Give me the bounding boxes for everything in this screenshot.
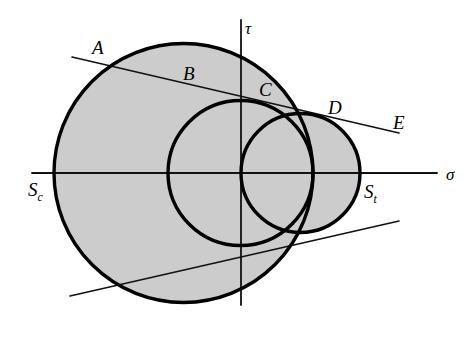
sc-subscript: c [38, 191, 43, 204]
point-label-c: C [259, 80, 272, 99]
mohr-circle-canvas [0, 0, 470, 341]
point-label-d: D [328, 98, 342, 117]
sc-symbol: S [28, 179, 38, 200]
mohr-circle-figure: A B C D E τ σ Sc St [0, 0, 470, 341]
st-subscript: t [374, 193, 377, 206]
tensile-strength-label: St [364, 182, 377, 206]
compressive-strength-label: Sc [28, 180, 43, 204]
point-label-e: E [393, 113, 405, 132]
st-symbol: S [364, 181, 374, 202]
point-label-a: A [92, 38, 104, 57]
point-label-b: B [183, 64, 195, 83]
tau-axis-label: τ [245, 20, 251, 37]
sigma-axis-label: σ [446, 166, 454, 183]
